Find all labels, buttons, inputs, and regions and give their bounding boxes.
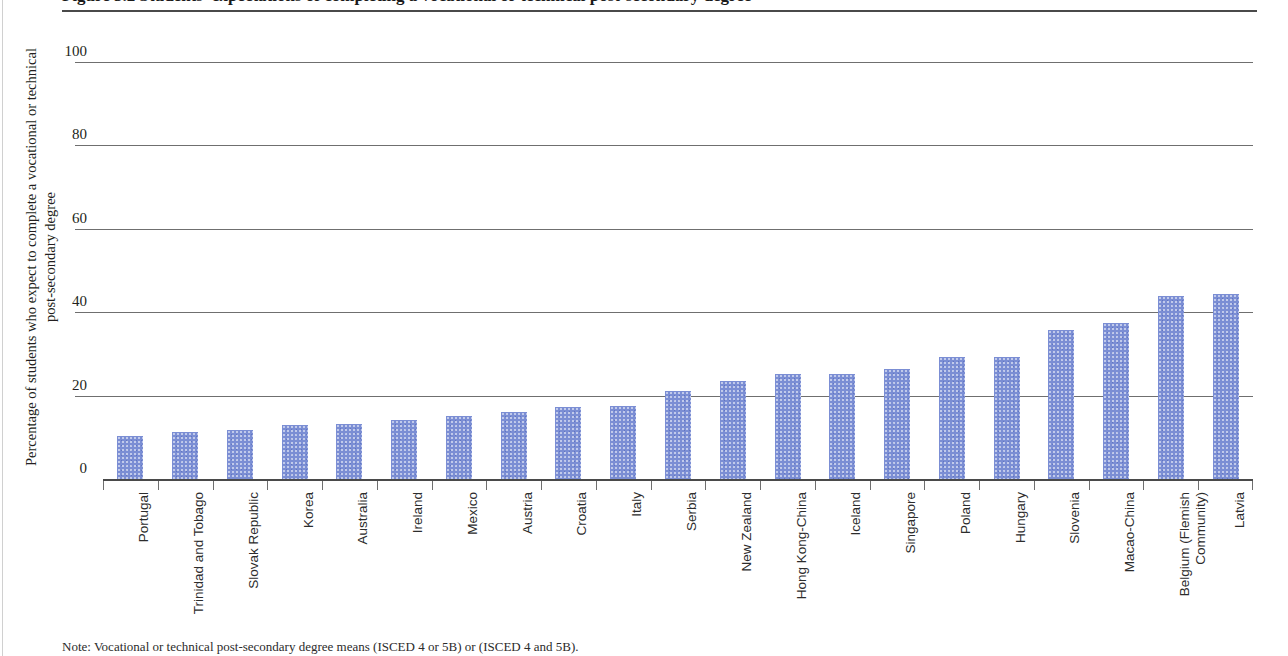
x-tick-mark xyxy=(924,481,925,490)
x-tick-mark xyxy=(322,481,323,490)
y-tick-rule-80 xyxy=(75,145,103,146)
bar xyxy=(282,425,308,479)
x-tick-label: Korea xyxy=(301,492,317,642)
x-tick-label: Ireland xyxy=(410,492,426,642)
x-tick-mark xyxy=(1252,481,1253,490)
title-divider-rule xyxy=(62,10,1257,12)
bar xyxy=(501,412,527,479)
plot-area: 020406080100 xyxy=(103,62,1253,479)
y-tick-rule-40 xyxy=(75,312,103,313)
y-tick-rule-60 xyxy=(75,229,103,230)
y-tick-label-100: 100 xyxy=(0,43,95,62)
x-tick-mark xyxy=(651,481,652,490)
bar xyxy=(1048,330,1074,479)
x-tick-mark xyxy=(1143,481,1144,490)
x-tick-mark xyxy=(103,481,104,490)
figure-note: Note: Vocational or technical post-secon… xyxy=(62,639,1252,656)
x-tick-label: Slovenia xyxy=(1067,492,1083,642)
x-tick-label: Belgium (Flemish Community) xyxy=(1177,492,1209,642)
bar xyxy=(172,432,198,479)
y-axis-title-container: Percentage of students who expect to com… xyxy=(18,32,64,482)
x-tick-label: Iceland xyxy=(848,492,864,642)
bar xyxy=(939,357,965,479)
x-tick-label: Portugal xyxy=(136,492,152,642)
x-axis-tick-labels: PortugalTrinidad and TobagoSlovak Republ… xyxy=(103,492,1253,652)
y-tick-label-60: 60 xyxy=(0,210,95,229)
x-tick-mark xyxy=(158,481,159,490)
bar xyxy=(884,369,910,479)
x-tick-mark xyxy=(1089,481,1090,490)
bar xyxy=(665,391,691,479)
x-axis-line xyxy=(103,479,1253,481)
bar xyxy=(117,436,143,479)
bar xyxy=(555,407,581,479)
y-tick-rule-20 xyxy=(75,396,103,397)
x-tick-label: Hong Kong-China xyxy=(794,492,810,642)
x-tick-mark xyxy=(1034,481,1035,490)
bar xyxy=(1213,294,1239,479)
bar xyxy=(336,424,362,479)
x-tick-mark xyxy=(815,481,816,490)
x-tick-mark xyxy=(377,481,378,490)
x-tick-mark xyxy=(979,481,980,490)
y-tick-label-80: 80 xyxy=(0,126,95,145)
x-tick-mark xyxy=(1198,481,1199,490)
x-tick-mark xyxy=(705,481,706,490)
x-tick-label: Australia xyxy=(355,492,371,642)
y-tick-label-20: 20 xyxy=(0,377,95,396)
x-tick-label: Serbia xyxy=(684,492,700,642)
x-tick-label: Latvia xyxy=(1232,492,1248,642)
x-tick-label: Macao-China xyxy=(1122,492,1138,642)
x-tick-label: Austria xyxy=(520,492,536,642)
x-tick-mark xyxy=(267,481,268,490)
bar xyxy=(1103,323,1129,479)
bar xyxy=(391,420,417,479)
x-tick-label: Trinidad and Tobago xyxy=(191,492,207,642)
y-tick-label-0: 0 xyxy=(0,460,95,479)
bar xyxy=(829,374,855,480)
x-tick-mark xyxy=(486,481,487,490)
x-tick-mark xyxy=(760,481,761,490)
bar-series xyxy=(103,62,1253,479)
figure-title: Figure 5.2 Students' expectations of com… xyxy=(62,0,1257,8)
x-tick-label: Singapore xyxy=(903,492,919,642)
bar xyxy=(775,374,801,479)
x-tick-mark xyxy=(213,481,214,490)
x-tick-mark xyxy=(432,481,433,490)
x-tick-mark xyxy=(541,481,542,490)
x-tick-label: Poland xyxy=(958,492,974,642)
x-tick-label: Hungary xyxy=(1013,492,1029,642)
bar xyxy=(610,406,636,479)
y-tick-rule-100 xyxy=(75,62,103,63)
figure-bar-chart: Figure 5.2 Students' expectations of com… xyxy=(0,0,1288,656)
y-tick-label-40: 40 xyxy=(0,293,95,312)
x-tick-label: Croatia xyxy=(574,492,590,642)
y-axis-title: Percentage of students who expect to com… xyxy=(22,42,59,472)
x-tick-label: Slovak Republic xyxy=(246,492,262,642)
x-tick-label: New Zealand xyxy=(739,492,755,642)
x-tick-label: Italy xyxy=(629,492,645,642)
x-tick-mark xyxy=(870,481,871,490)
bar xyxy=(1158,296,1184,479)
x-tick-label: Mexico xyxy=(465,492,481,642)
bar xyxy=(446,416,472,479)
bar xyxy=(720,381,746,479)
bar xyxy=(227,430,253,479)
bar xyxy=(994,357,1020,479)
x-tick-mark xyxy=(596,481,597,490)
